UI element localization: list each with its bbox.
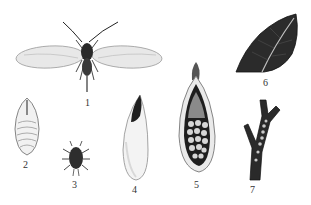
figure-infested-twig — [240, 96, 286, 182]
label-4: 4 — [132, 185, 137, 195]
figure-infested-leaf — [234, 12, 300, 74]
label-6: 6 — [263, 78, 268, 88]
label-7: 7 — [250, 185, 255, 195]
figure-pupa — [12, 95, 42, 157]
label-3: 3 — [72, 180, 77, 190]
figure-scale-with-eggs — [175, 58, 219, 178]
figure-adult-insect — [10, 10, 165, 100]
figure-nymph — [60, 138, 92, 180]
figure-cocoon — [118, 92, 152, 184]
label-5: 5 — [194, 180, 199, 190]
label-1: 1 — [85, 98, 90, 108]
label-2: 2 — [23, 160, 28, 170]
